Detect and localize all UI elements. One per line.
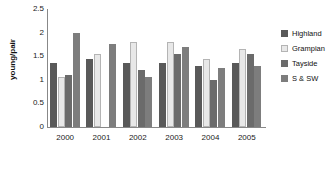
x-axis-tick-label: 2005	[229, 133, 265, 142]
legend-swatch-icon	[281, 30, 288, 37]
x-axis-tick-label: 2002	[120, 133, 156, 142]
bar-highland-2003	[159, 63, 166, 127]
bar-s-sw-2001	[109, 44, 116, 127]
y-axis-tick-label: 2	[4, 29, 44, 37]
x-axis-tick-label: 2003	[156, 133, 192, 142]
y-axis-tick-label: 1	[4, 76, 44, 84]
legend-swatch-icon	[281, 60, 288, 67]
bar-group	[159, 9, 189, 127]
bar-grampian-2000	[58, 77, 65, 127]
bar-tayside-2004	[210, 80, 217, 127]
x-axis-tick-label: 2000	[47, 133, 83, 142]
bar-tayside-2003	[174, 54, 181, 127]
bar-highland-2002	[123, 63, 130, 127]
legend-swatch-icon	[281, 75, 288, 82]
bar-s-sw-2005	[254, 66, 261, 127]
bar-grampian-2004	[203, 59, 210, 127]
legend-item-label: Highland	[292, 29, 322, 38]
legend-item-highland[interactable]: Highland	[281, 27, 335, 40]
bar-grampian-2001	[94, 54, 101, 127]
bar-grampian-2005	[239, 49, 246, 127]
bar-grampian-2002	[130, 42, 137, 127]
x-axis-tick-label: 2004	[192, 133, 228, 142]
y-axis-tick-label: 0.5	[4, 99, 44, 107]
bar-tayside-2002	[138, 70, 145, 127]
bar-group	[195, 9, 225, 127]
y-axis-tick-label: 2.5	[4, 5, 44, 13]
x-axis-tick-label: 2001	[83, 133, 119, 142]
legend-item-s-sw[interactable]: S & SW	[281, 72, 335, 85]
legend-item-label: Tayside	[292, 59, 317, 68]
plot-area	[47, 9, 265, 127]
chart-legend: HighlandGrampianTaysideS & SW	[281, 27, 335, 87]
bar-chart: young/pair 00.511.522.5 HighlandGrampian…	[0, 0, 335, 171]
y-axis-tick-label: 1.5	[4, 52, 44, 60]
bar-group	[123, 9, 153, 127]
bar-highland-2004	[195, 66, 202, 127]
bar-grampian-2003	[167, 42, 174, 127]
y-axis-tick-labels: 00.511.522.5	[0, 0, 44, 171]
bar-highland-2000	[50, 63, 57, 127]
bar-s-sw-2002	[145, 77, 152, 127]
bar-tayside-2005	[247, 54, 254, 127]
legend-item-grampian[interactable]: Grampian	[281, 42, 335, 55]
bar-group	[232, 9, 262, 127]
bar-group	[50, 9, 80, 127]
legend-swatch-icon	[281, 45, 288, 52]
legend-item-label: Grampian	[292, 44, 325, 53]
legend-item-label: S & SW	[292, 74, 318, 83]
bar-s-sw-2003	[182, 47, 189, 127]
bar-group	[86, 9, 116, 127]
bar-s-sw-2004	[218, 68, 225, 127]
x-axis-line	[47, 127, 266, 128]
bar-highland-2005	[232, 63, 239, 127]
bar-tayside-2000	[65, 75, 72, 127]
legend-item-tayside[interactable]: Tayside	[281, 57, 335, 70]
bar-s-sw-2000	[73, 33, 80, 127]
bar-highland-2001	[86, 59, 93, 127]
y-axis-tick-label: 0	[4, 123, 44, 131]
